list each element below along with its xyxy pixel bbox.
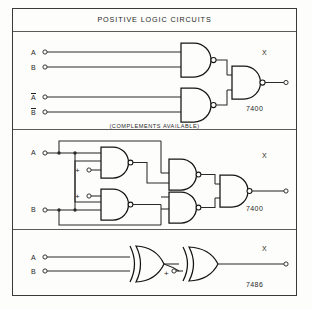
terminal-supply-1[interactable]	[87, 168, 91, 172]
nand-gate-2-2	[101, 189, 128, 220]
terminal-x-3	[284, 262, 288, 266]
xor-gate-1	[136, 246, 164, 282]
xor-gate-2	[189, 247, 218, 281]
terminal-b-2	[43, 208, 47, 212]
terminal-a-2	[43, 151, 47, 155]
nand-gate-2	[181, 88, 211, 122]
terminal-a-3	[43, 255, 47, 259]
terminal-x	[284, 80, 288, 84]
diagram-frame: POSITIVE LOGIC CIRCUITS A B A B X 7400	[12, 8, 297, 296]
terminal-supply-2[interactable]	[87, 194, 91, 198]
nand-gate-2-3	[169, 159, 196, 190]
terminal-supply-3[interactable]	[172, 269, 176, 273]
terminal-x-2	[284, 189, 288, 193]
divider-1	[13, 129, 296, 130]
nand-gate-3	[232, 66, 261, 99]
panel2-schematic	[13, 137, 298, 247]
terminal-a	[43, 50, 47, 54]
nand-gate-2-1	[101, 147, 128, 178]
logic-diagram-root: POSITIVE LOGIC CIRCUITS A B A B X 7400	[0, 0, 312, 309]
xor-gate-1-arc	[130, 246, 135, 282]
nand-gate-1	[181, 43, 211, 77]
panel3-schematic	[13, 237, 298, 309]
nand-gate-2-5	[220, 175, 248, 207]
terminal-b-bar	[43, 110, 47, 114]
divider-2	[13, 229, 296, 230]
terminal-a-bar	[43, 95, 47, 99]
terminal-b	[43, 65, 47, 69]
xor-gate-2-arc	[183, 247, 188, 281]
nand-gate-2-4	[169, 192, 196, 223]
terminal-b-3	[43, 269, 47, 273]
panel1-schematic	[13, 9, 298, 137]
